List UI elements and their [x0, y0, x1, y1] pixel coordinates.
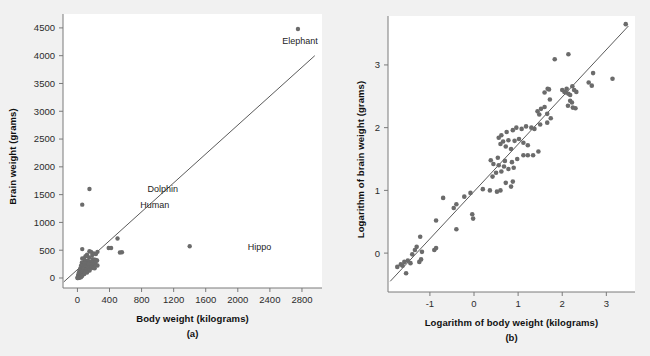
svg-text:400: 400: [102, 294, 118, 305]
svg-text:3: 3: [375, 59, 380, 70]
svg-text:1500: 1500: [34, 189, 55, 200]
panel-a-plot: 0500100015002000250030003500400045000400…: [0, 0, 340, 356]
svg-text:Dolphin: Dolphin: [147, 184, 178, 194]
svg-text:1600: 1600: [195, 294, 216, 305]
svg-text:Elephant: Elephant: [282, 36, 318, 46]
svg-text:0: 0: [375, 248, 380, 259]
svg-text:2400: 2400: [259, 294, 280, 305]
svg-text:2: 2: [375, 122, 380, 133]
svg-text:Human: Human: [140, 200, 169, 210]
svg-text:3000: 3000: [34, 106, 55, 117]
svg-text:2000: 2000: [34, 161, 55, 172]
panel-a-x-axis-title: Body weight (kilograms): [23, 313, 362, 324]
svg-text:0: 0: [50, 272, 55, 283]
svg-text:3500: 3500: [34, 78, 55, 89]
scatter-panel-a: 0500100015002000250030003500400045000400…: [0, 0, 340, 356]
panel-b-caption: (b): [348, 332, 650, 343]
svg-text:800: 800: [134, 294, 150, 305]
panel-a-y-axis-title: Brain weight (grams): [7, 108, 18, 205]
panel-b-x-axis-title: Logarithm of body weight (kilograms): [348, 317, 650, 328]
svg-text:0: 0: [471, 298, 476, 309]
svg-text:1000: 1000: [34, 217, 55, 228]
scatter-panel-b: 0123-10123 Logarithm of body weight (kil…: [340, 0, 650, 356]
svg-text:4500: 4500: [34, 22, 55, 33]
svg-text:2: 2: [560, 298, 565, 309]
panel-b-y-axis-title: Logarithm of brain weight (grams): [355, 81, 366, 238]
svg-text:1200: 1200: [163, 294, 184, 305]
figure-container: 0500100015002000250030003500400045000400…: [0, 0, 650, 356]
svg-text:1: 1: [515, 298, 520, 309]
svg-text:2500: 2500: [34, 133, 55, 144]
svg-text:-1: -1: [426, 298, 434, 309]
svg-text:2800: 2800: [291, 294, 312, 305]
svg-text:1: 1: [375, 185, 380, 196]
svg-text:3: 3: [604, 298, 609, 309]
panel-a-caption: (a): [23, 328, 362, 339]
panel-b-plot: 0123-10123: [340, 0, 650, 356]
svg-text:Hippo: Hippo: [248, 242, 272, 252]
svg-text:500: 500: [39, 245, 55, 256]
svg-text:4000: 4000: [34, 50, 55, 61]
svg-text:2000: 2000: [227, 294, 248, 305]
svg-text:0: 0: [75, 294, 80, 305]
